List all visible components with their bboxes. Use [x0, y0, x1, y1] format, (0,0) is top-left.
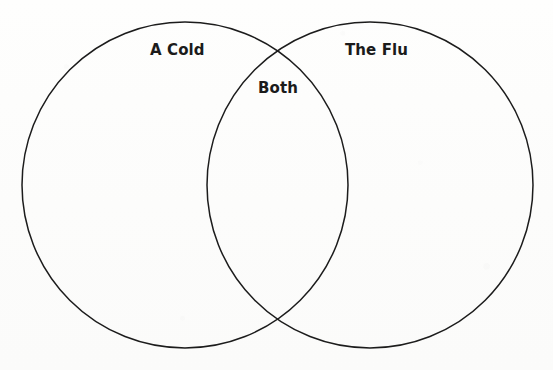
left-set-circle[interactable] — [22, 22, 348, 348]
venn-diagram-worksheet: A Cold The Flu Both — [0, 0, 553, 370]
left-set-label: A Cold — [150, 43, 205, 58]
intersection-label: Both — [258, 81, 298, 96]
venn-circles-group — [0, 0, 553, 370]
right-set-label: The Flu — [345, 43, 408, 58]
right-set-circle[interactable] — [207, 22, 533, 348]
